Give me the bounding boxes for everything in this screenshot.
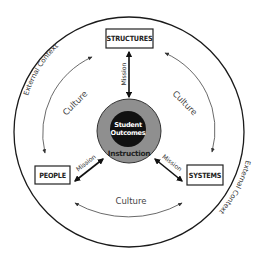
node-people-label: PEOPLE	[39, 171, 66, 180]
node-people: PEOPLE	[35, 166, 70, 184]
core-label-line2: Outcomes	[111, 129, 146, 137]
mission-label-right: Mission	[161, 153, 183, 173]
mission-label-left: Mission	[74, 153, 96, 173]
node-systems: SYSTEMS	[187, 165, 223, 185]
core-instruction: Student Outcomes Instruction	[97, 99, 161, 163]
framework-diagram: External Context External Context Cultur…	[0, 0, 264, 257]
mission-label-top: Mission	[120, 62, 127, 85]
instruction-label: Instruction	[108, 149, 150, 158]
external-context-label-top-left: External Context	[22, 42, 60, 97]
node-systems-label: SYSTEMS	[189, 171, 222, 180]
culture-label-bottom: Culture	[116, 196, 147, 206]
node-structures-label: STRUCTURES	[107, 34, 153, 43]
culture-label-right: Culture	[171, 89, 200, 118]
culture-label-left: Culture	[61, 89, 90, 118]
node-structures: STRUCTURES	[106, 29, 153, 48]
core-label-line1: Student	[114, 121, 142, 129]
